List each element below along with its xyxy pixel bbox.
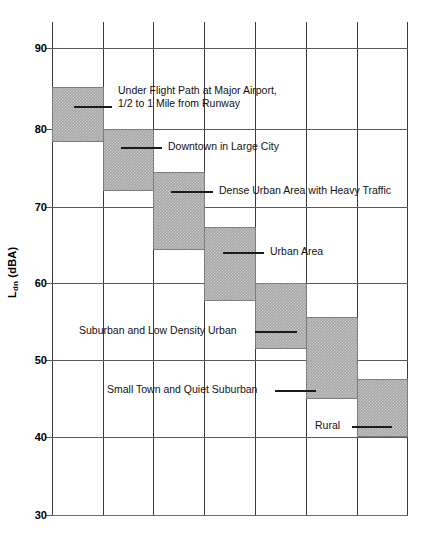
callout-rural-line1: Rural	[315, 419, 340, 432]
range-box-urban	[204, 227, 256, 301]
y-tick-label-90: 90	[35, 42, 47, 54]
callout-small-town-line1: Small Town and Quiet Suburban	[107, 383, 257, 396]
horizontal-gridline-90	[52, 48, 408, 49]
leader-line	[74, 106, 112, 108]
y-tick-label-70: 70	[35, 201, 47, 213]
callout-urban: Urban Area	[270, 245, 323, 258]
leader-line	[275, 390, 316, 392]
figure-caption	[20, 543, 425, 556]
callout-suburban: Suburban and Low Density Urban	[79, 324, 237, 337]
callout-downtown: Downtown in Large City	[168, 140, 279, 153]
leader-line	[255, 331, 297, 333]
horizontal-gridline-40	[52, 437, 408, 438]
callout-airport: Under Flight Path at Major Airport, 1/2 …	[118, 84, 277, 110]
vertical-gridline	[357, 22, 358, 515]
y-tick-label-40: 40	[35, 431, 47, 443]
y-axis-title-subscript: dn	[11, 281, 20, 291]
y-axis-title-unit: (dBA)	[6, 247, 18, 281]
leader-line	[223, 252, 264, 254]
range-box-dense-urban	[153, 172, 205, 250]
y-tick-label-30: 30	[35, 509, 47, 521]
range-box-downtown	[103, 129, 154, 191]
y-axis-title: Ldn (dBA)	[6, 247, 18, 298]
range-box-airport	[52, 87, 104, 142]
y-tick-label-50: 50	[35, 354, 47, 366]
callout-rural: Rural	[315, 419, 340, 432]
leader-line	[171, 191, 213, 193]
callout-suburban-line1: Suburban and Low Density Urban	[79, 324, 237, 337]
horizontal-gridline-30	[52, 515, 408, 516]
callout-small-town: Small Town and Quiet Suburban	[107, 383, 257, 396]
callout-airport-line2: 1/2 to 1 Mile from Runway	[118, 97, 277, 110]
vertical-gridline	[306, 22, 307, 515]
callout-airport-line1: Under Flight Path at Major Airport,	[118, 84, 277, 97]
range-box-suburban	[255, 283, 307, 349]
leader-line	[121, 147, 162, 149]
y-axis-title-base: L	[6, 291, 18, 298]
horizontal-gridline-70	[52, 207, 408, 208]
callout-dense-urban-line1: Dense Urban Area with Heavy Traffic	[219, 184, 391, 197]
y-tick-label-60: 60	[35, 277, 47, 289]
chart-figure: Ldn (dBA) 90 80 70 60 50 40 30	[0, 0, 425, 556]
callout-urban-line1: Urban Area	[270, 245, 323, 258]
leader-line	[352, 426, 392, 428]
vertical-gridline	[407, 22, 408, 515]
callout-dense-urban: Dense Urban Area with Heavy Traffic	[219, 184, 391, 197]
range-box-small-town	[306, 317, 358, 399]
callout-downtown-line1: Downtown in Large City	[168, 140, 279, 153]
range-box-rural	[357, 379, 408, 437]
y-tick-label-80: 80	[35, 123, 47, 135]
